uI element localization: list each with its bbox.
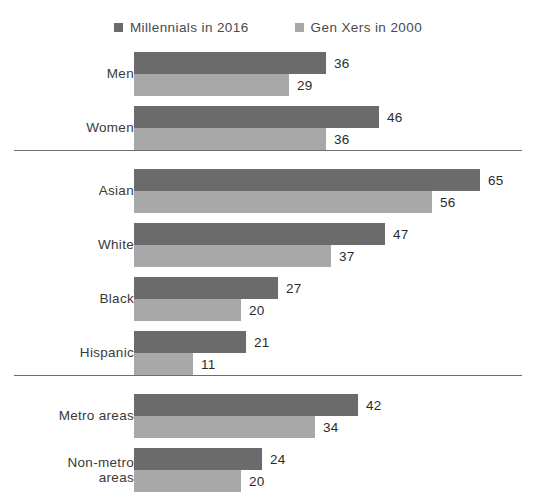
bar-row: 20	[134, 299, 302, 321]
bar-genxers	[134, 299, 241, 321]
bar-value-label: 34	[323, 420, 339, 435]
bar-millennials	[134, 52, 326, 74]
bar-genxers	[134, 74, 289, 96]
bar-value-label: 21	[254, 335, 270, 350]
section-separator	[14, 150, 522, 151]
bar-row: 47	[134, 223, 409, 245]
bar-millennials	[134, 394, 358, 416]
category-label: White	[8, 237, 134, 252]
bar-row: 21	[134, 331, 270, 353]
bar-pair: 3629	[134, 52, 350, 96]
bar-row: 29	[134, 74, 350, 96]
bar-value-label: 11	[201, 357, 216, 372]
bar-row: 34	[134, 416, 382, 438]
bar-row: 24	[134, 448, 286, 470]
bar-group: Non-metroareas2420	[0, 448, 536, 492]
bar-value-label: 20	[249, 474, 265, 489]
category-label: Black	[8, 291, 134, 306]
bar-genxers	[134, 191, 432, 213]
bar-value-label: 65	[488, 173, 504, 188]
category-label: Metro areas	[8, 408, 134, 423]
category-label: Men	[8, 66, 134, 81]
bar-millennials	[134, 448, 262, 470]
category-label: Women	[8, 120, 134, 135]
bar-value-label: 29	[297, 78, 313, 93]
bar-value-label: 24	[270, 452, 286, 467]
bar-group: Women4636	[0, 106, 536, 150]
legend-swatch-genxers-icon	[295, 23, 304, 32]
bar-row: 36	[134, 52, 350, 74]
bar-value-label: 36	[334, 132, 350, 147]
bar-millennials	[134, 223, 385, 245]
bar-row: 56	[134, 191, 504, 213]
bar-pair: 4234	[134, 394, 382, 438]
bar-genxers	[134, 416, 315, 438]
bar-group: Asian6556	[0, 169, 536, 213]
bar-row: 36	[134, 128, 403, 150]
category-label-line2: areas	[8, 470, 134, 485]
bar-row: 37	[134, 245, 409, 267]
bar-millennials	[134, 169, 480, 191]
bar-row: 11	[134, 353, 270, 375]
bar-genxers	[134, 470, 241, 492]
legend-entry-millennials: Millennials in 2016	[114, 20, 249, 35]
category-label: Asian	[8, 183, 134, 198]
legend-entry-genxers: Gen Xers in 2000	[295, 20, 422, 35]
bar-millennials	[134, 106, 379, 128]
bar-row: 65	[134, 169, 504, 191]
section-separator	[14, 375, 522, 376]
category-label: Non-metroareas	[8, 455, 134, 485]
bar-value-label: 20	[249, 303, 265, 318]
bar-pair: 4737	[134, 223, 409, 267]
category-label: Hispanic	[8, 345, 134, 360]
legend-label-genxers: Gen Xers in 2000	[311, 20, 422, 35]
bar-row: 20	[134, 470, 286, 492]
bar-millennials	[134, 331, 246, 353]
bar-value-label: 36	[334, 56, 350, 71]
bar-value-label: 47	[393, 227, 409, 242]
bar-group: Metro areas4234	[0, 394, 536, 438]
bar-value-label: 46	[387, 110, 403, 125]
chart-legend: Millennials in 2016 Gen Xers in 2000	[0, 14, 536, 40]
bar-row: 27	[134, 277, 302, 299]
legend-swatch-millennials-icon	[114, 23, 123, 32]
bar-row: 46	[134, 106, 403, 128]
category-label-line1: Non-metro	[8, 455, 134, 470]
bar-value-label: 42	[366, 398, 382, 413]
bar-pair: 2720	[134, 277, 302, 321]
bar-value-label: 27	[286, 281, 302, 296]
bar-pair: 4636	[134, 106, 403, 150]
legend-label-millennials: Millennials in 2016	[130, 20, 249, 35]
bar-millennials	[134, 277, 278, 299]
bar-genxers	[134, 353, 193, 375]
bar-value-label: 37	[339, 249, 355, 264]
chart-plot-area: Men3629Women4636Asian6556White4737Black2…	[0, 44, 536, 500]
bar-group: White4737	[0, 223, 536, 267]
bar-pair: 2420	[134, 448, 286, 492]
bar-group: Men3629	[0, 52, 536, 96]
bar-value-label: 56	[440, 195, 456, 210]
bar-group: Hispanic2111	[0, 331, 536, 375]
bar-genxers	[134, 128, 326, 150]
bar-pair: 2111	[134, 331, 270, 375]
bar-row: 42	[134, 394, 382, 416]
bar-group: Black2720	[0, 277, 536, 321]
bar-pair: 6556	[134, 169, 504, 213]
bar-genxers	[134, 245, 331, 267]
